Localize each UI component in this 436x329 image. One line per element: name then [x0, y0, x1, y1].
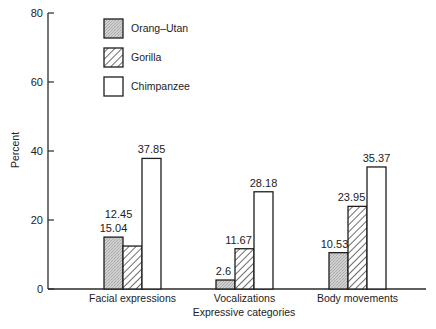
legend-label: Gorilla	[131, 51, 162, 63]
x-category-label: Facial expressions	[89, 292, 176, 304]
x-category-label: Vocalizations	[214, 292, 275, 304]
value-label: 11.67	[225, 234, 252, 246]
legend-label: Chimpanzee	[131, 80, 190, 92]
value-label: 35.37	[363, 152, 391, 164]
legend-swatch	[104, 19, 123, 38]
bar-orang-utan	[216, 280, 235, 289]
bar-chimpanzee	[254, 192, 273, 289]
bar-orang-utan	[104, 237, 123, 289]
legend-item-chimpanzee: Chimpanzee	[104, 77, 190, 96]
bar-gorilla	[348, 206, 367, 289]
y-tick-label: 40	[31, 145, 43, 157]
value-label: 15.04	[100, 222, 128, 234]
y-tick-label: 20	[31, 214, 43, 226]
y-tick-label: 80	[31, 7, 43, 19]
value-label: 37.85	[138, 143, 166, 155]
legend-item-gorilla: Gorilla	[104, 48, 162, 67]
legend-swatch	[104, 77, 123, 96]
bar-orang-utan	[329, 253, 348, 289]
bar-group-body-movements: 10.5323.9535.37Body movements	[317, 152, 398, 304]
value-label: 12.45	[105, 208, 133, 220]
x-category-label: Body movements	[317, 292, 398, 304]
legend-swatch	[104, 48, 123, 67]
x-axis-title: Expressive categories	[193, 306, 296, 318]
bar-chimpanzee	[142, 158, 161, 289]
legend-item-orang-utan: Orang–Utan	[104, 19, 188, 38]
value-label: 23.95	[338, 191, 366, 203]
bar-gorilla	[235, 249, 254, 289]
bar-group-vocalizations: 2.611.6728.18Vocalizations	[214, 177, 277, 304]
y-axis: 020406080	[31, 7, 54, 295]
value-label: 28.18	[250, 177, 278, 189]
bar-chart: 020406080 Percent Expressive categories …	[0, 0, 436, 329]
bar-gorilla	[123, 246, 142, 289]
y-tick-label: 60	[31, 76, 43, 88]
value-label: 2.6	[216, 265, 231, 277]
bars-group: 15.0412.4537.85Facial expressions2.611.6…	[89, 143, 398, 304]
y-axis-title: Percent	[9, 132, 21, 168]
legend-label: Orang–Utan	[131, 22, 188, 34]
legend: Orang–UtanGorillaChimpanzee	[104, 19, 190, 96]
value-label: 10.53	[321, 238, 349, 250]
bar-chimpanzee	[367, 167, 386, 289]
y-tick-label: 0	[37, 283, 43, 295]
bar-group-facial-expressions: 15.0412.4537.85Facial expressions	[89, 143, 176, 304]
